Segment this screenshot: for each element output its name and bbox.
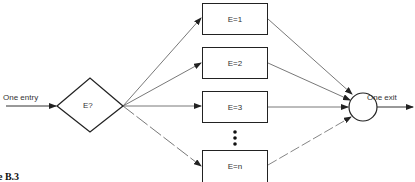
figure-caption: e B.3 — [0, 171, 19, 182]
case-label: E=n — [228, 162, 242, 171]
case-label: E=1 — [228, 15, 242, 24]
case-box-2: E=2 — [202, 47, 268, 79]
case-label: E=3 — [228, 103, 242, 112]
decision-label: E? — [83, 101, 93, 110]
exit-label: One exit — [367, 93, 397, 102]
case-box-1: E=1 — [202, 3, 268, 35]
entry-label: One entry — [3, 93, 38, 102]
case-label: E=2 — [228, 59, 242, 68]
case-box-3: E=3 — [202, 91, 268, 123]
case-box-n: E=n — [202, 150, 268, 182]
